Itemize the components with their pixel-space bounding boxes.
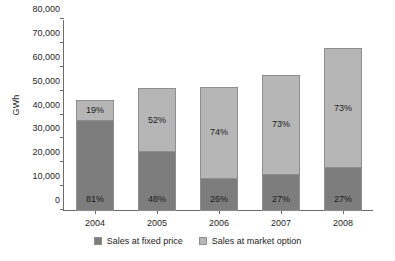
bar-group-2004: 19%81%: [76, 100, 114, 210]
x-axis-tick-label-2004: 2004: [85, 218, 105, 228]
y-axis-tick-mark: [60, 209, 64, 210]
y-axis-title: GWh: [11, 75, 21, 135]
y-axis-tick-label: 70,000: [32, 28, 60, 38]
bar-group-2007: 73%27%: [262, 75, 300, 210]
y-axis-tick-mark: [60, 114, 64, 115]
bar-segment-2007-fixed-price: 27%: [262, 174, 300, 211]
bar-segment-label: 27%: [334, 195, 352, 204]
stacked-bar-chart: GWh 010,00020,00030,00040,00050,00060,00…: [0, 0, 395, 261]
legend-item-market-option[interactable]: Sales at market option: [199, 236, 302, 246]
x-axis-tick-label-2008: 2008: [333, 218, 353, 228]
bar-segment-label: 73%: [334, 104, 352, 113]
legend-label: Sales at fixed price: [107, 236, 183, 246]
y-axis-tick-label: 60,000: [32, 52, 60, 62]
bar-segment-2004-market-option: 19%: [76, 100, 114, 121]
bar-segment-2006-market-option: 74%: [200, 87, 238, 180]
bar-segment-label: 48%: [148, 195, 166, 204]
bar-segment-2006-fixed-price: 26%: [200, 178, 238, 211]
bar-segment-label: 73%: [272, 120, 290, 129]
y-axis-tick-label: 0: [55, 195, 60, 205]
y-axis-tick-mark: [60, 18, 64, 19]
legend-swatch-icon: [199, 237, 207, 245]
bar-segment-2008-market-option: 73%: [324, 48, 362, 167]
y-axis-tick-mark: [60, 161, 64, 162]
y-axis-tick-label: 80,000: [32, 4, 60, 14]
y-axis-tick-mark: [60, 42, 64, 43]
y-axis-tick-mark: [60, 66, 64, 67]
plot-area: 010,00020,00030,00040,00050,00060,00070,…: [63, 20, 373, 211]
bar-group-2005: 52%48%: [138, 88, 176, 210]
bar-segment-label: 27%: [272, 195, 290, 204]
y-axis-tick-mark: [60, 137, 64, 138]
y-axis-tick-label: 30,000: [32, 123, 60, 133]
chart-legend: Sales at fixed priceSales at market opti…: [0, 236, 395, 246]
y-axis-tick-label: 10,000: [32, 171, 60, 181]
bar-segment-2007-market-option: 73%: [262, 75, 300, 175]
bar-segment-2005-market-option: 52%: [138, 88, 176, 152]
bar-segment-label: 81%: [86, 195, 104, 204]
legend-label: Sales at market option: [212, 236, 302, 246]
y-axis-tick-label: 50,000: [32, 76, 60, 86]
bar-segment-label: 26%: [210, 195, 228, 204]
x-axis-tick-label-2005: 2005: [147, 218, 167, 228]
y-axis-tick-label: 40,000: [32, 100, 60, 110]
x-axis-tick-label-2006: 2006: [209, 218, 229, 228]
x-axis-tick-label-2007: 2007: [271, 218, 291, 228]
bar-segment-2008-fixed-price: 27%: [324, 167, 362, 211]
bar-segment-label: 52%: [148, 116, 166, 125]
y-axis-tick-label: 20,000: [32, 147, 60, 157]
legend-swatch-icon: [94, 237, 102, 245]
bar-segment-label: 19%: [86, 106, 104, 115]
bar-segment-label: 74%: [210, 128, 228, 137]
bar-segment-2004-fixed-price: 81%: [76, 120, 114, 211]
bar-group-2006: 74%26%: [200, 87, 238, 210]
y-axis-tick-mark: [60, 185, 64, 186]
bar-segment-2005-fixed-price: 48%: [138, 151, 176, 211]
y-axis-tick-mark: [60, 90, 64, 91]
bar-group-2008: 73%27%: [324, 48, 362, 210]
legend-item-fixed-price[interactable]: Sales at fixed price: [94, 236, 183, 246]
